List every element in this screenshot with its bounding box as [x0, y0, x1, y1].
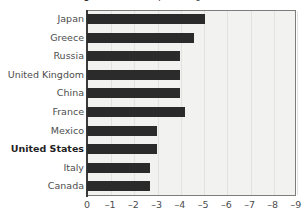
- bar-japan: [87, 14, 205, 24]
- x-axis-label: –4: [168, 199, 192, 210]
- bar-italy: [87, 163, 150, 173]
- bar-row: [87, 66, 296, 85]
- y-axis-label: Canada: [0, 177, 84, 196]
- x-axis-label: –6: [214, 199, 238, 210]
- gridline: [297, 11, 298, 195]
- bar-row: [87, 47, 296, 66]
- bar-row: [87, 103, 296, 122]
- y-axis-label: United Kingdom: [0, 66, 84, 85]
- y-axis-label: Mexico: [0, 122, 84, 141]
- bar-row: [87, 10, 296, 29]
- bar-row: [87, 159, 296, 178]
- bar-russia: [87, 51, 180, 61]
- x-axis-label: –8: [261, 199, 285, 210]
- chart-container: Budget Balance (as percentage of GDP) Ja…: [0, 0, 306, 216]
- bar-row: [87, 29, 296, 48]
- x-axis-label: 0: [75, 199, 99, 210]
- bar-row: [87, 140, 296, 159]
- bar-united-states: [87, 144, 157, 154]
- chart-title-main: Budget Balance: [65, 0, 140, 1]
- x-axis-label: –3: [145, 199, 169, 210]
- y-axis-label: Russia: [0, 47, 84, 66]
- bar-row: [87, 122, 296, 141]
- bar-greece: [87, 33, 194, 43]
- x-axis-label: –1: [98, 199, 122, 210]
- x-axis-label: –7: [238, 199, 262, 210]
- bar-mexico: [87, 126, 157, 136]
- bar-canada: [87, 181, 150, 191]
- y-axis-labels: JapanGreeceRussiaUnited KingdomChinaFran…: [0, 10, 84, 196]
- y-axis-label: Japan: [0, 10, 84, 29]
- y-axis-label: United States: [0, 140, 84, 159]
- y-axis-label: China: [0, 84, 84, 103]
- x-axis-label: –2: [121, 199, 145, 210]
- bar-china: [87, 88, 180, 98]
- y-axis-label: Greece: [0, 29, 84, 48]
- bar-series: [87, 10, 296, 196]
- bar-united-kingdom: [87, 70, 180, 80]
- bar-row: [87, 177, 296, 196]
- chart-title: Budget Balance (as percentage of GDP): [0, 0, 306, 2]
- chart-title-area: Budget Balance (as percentage of GDP): [0, 0, 306, 3]
- bar-row: [87, 84, 296, 103]
- y-axis-label: France: [0, 103, 84, 122]
- x-axis-label: –5: [191, 199, 215, 210]
- y-axis-label: Italy: [0, 159, 84, 178]
- chart-title-subtitle: (as percentage of GDP): [143, 0, 241, 1]
- bar-france: [87, 107, 185, 117]
- x-axis-label: –9: [284, 199, 306, 210]
- x-axis-labels: 0–1–2–3–4–5–6–7–8–9: [87, 199, 296, 213]
